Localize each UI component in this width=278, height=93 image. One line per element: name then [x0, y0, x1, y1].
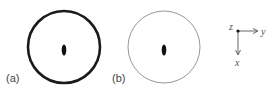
panel-label-a: (a): [6, 72, 19, 84]
z-axis-origin-dot: [236, 29, 239, 32]
panel-b: (b): [112, 11, 200, 84]
y-axis-label: y: [260, 26, 266, 37]
x-axis-label: x: [234, 57, 240, 68]
coordinate-axes: z y x: [228, 21, 266, 68]
center-dot: [162, 45, 167, 56]
panel-a: (a): [6, 11, 100, 84]
z-axis-label: z: [228, 21, 233, 32]
diagram-canvas: (a) (b) z y x: [0, 0, 278, 93]
center-dot: [62, 45, 67, 56]
panel-label-b: (b): [112, 72, 125, 84]
